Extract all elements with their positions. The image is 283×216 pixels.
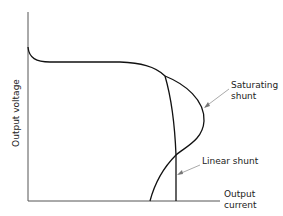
x-axis-label-line2: current: [224, 200, 257, 210]
diagram: Output voltage Output current Saturating…: [0, 0, 283, 216]
x-axis-label-line1: Output: [224, 189, 256, 199]
saturating-arrowhead-icon: [204, 102, 210, 108]
saturating-label-line1: Saturating: [231, 80, 278, 90]
linear-arrowhead-icon: [177, 170, 183, 175]
linear-label: Linear shunt: [202, 156, 259, 166]
linear-shunt-curve: [165, 76, 176, 201]
saturating-shunt-curve: [150, 76, 204, 201]
saturating-label-line2: shunt: [231, 91, 257, 101]
common-curve: [28, 47, 165, 76]
y-axis-label: Output voltage: [11, 79, 21, 147]
